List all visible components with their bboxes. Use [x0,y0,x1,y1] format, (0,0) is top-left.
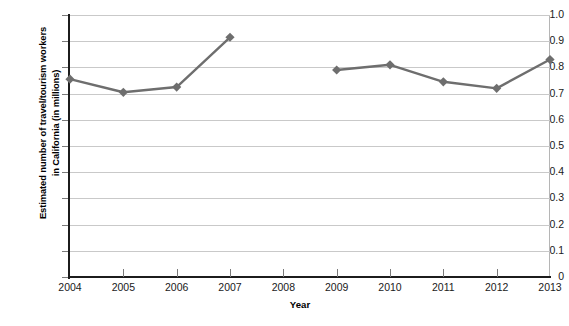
gridline [70,146,550,147]
x-tick-label: 2010 [360,281,420,293]
x-tick-mark [443,269,444,277]
x-tick-mark [177,269,178,277]
x-axis-title: Year [240,299,360,310]
x-tick-mark [497,269,498,277]
x-tick-label: 2013 [520,281,569,293]
plot-area [70,15,550,277]
gridline [70,172,550,173]
x-tick-label: 2006 [147,281,207,293]
x-tick-label: 2011 [413,281,473,293]
x-tick-label: 2009 [307,281,367,293]
gridline [70,94,550,95]
gridline [70,198,550,199]
gridline [70,67,550,68]
x-tick-label: 2005 [93,281,153,293]
x-tick-label: 2007 [200,281,260,293]
x-tick-label: 2008 [253,281,313,293]
x-tick-label: 2004 [40,281,100,293]
x-tick-label: 2012 [467,281,527,293]
x-axis-line [68,276,551,278]
x-tick-mark [283,269,284,277]
gridline [70,15,550,16]
gridline [70,120,550,121]
gridline [70,225,550,226]
x-tick-mark [230,269,231,277]
gridline [70,251,550,252]
y-axis-line [68,14,70,279]
y-axis-title: Estimated number of travel/tourism worke… [36,0,62,268]
x-tick-mark [337,269,338,277]
x-tick-mark [390,269,391,277]
x-tick-mark [123,269,124,277]
gridline [70,41,550,42]
